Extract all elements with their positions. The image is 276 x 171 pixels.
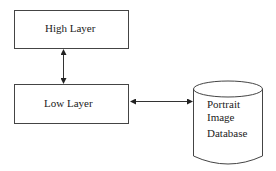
- db-label-line-1: Portrait: [207, 98, 240, 110]
- db-label-line-3: Database: [207, 127, 247, 139]
- diagram-canvas: [0, 0, 276, 171]
- high-layer-label: High Layer: [45, 22, 95, 34]
- db-label-line-2: Image: [207, 111, 234, 123]
- low-layer-label: Low Layer: [44, 97, 93, 109]
